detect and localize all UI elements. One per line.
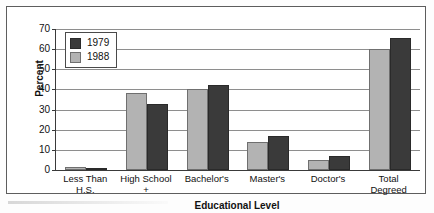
y-axis-tick xyxy=(52,89,56,90)
legend-item-1979: 1979 xyxy=(70,36,109,50)
y-axis-tick-label: 30 xyxy=(39,105,50,115)
y-axis-tick xyxy=(52,69,56,70)
legend-label: 1979 xyxy=(87,38,109,48)
y-axis-tick-label: 0 xyxy=(44,165,50,175)
bar-group xyxy=(177,85,238,170)
x-axis-category-label: Doctor's xyxy=(298,173,359,184)
y-axis-tick-label: 70 xyxy=(39,24,50,34)
x-axis-category-label: Total Degreed xyxy=(358,173,419,195)
x-axis-category-label: High School + xyxy=(116,173,177,195)
x-axis-category-label: Master's xyxy=(237,173,298,184)
y-axis-tick-label: 20 xyxy=(39,125,50,135)
scan-artifact xyxy=(8,201,168,204)
gridline xyxy=(56,29,420,30)
bar-1979-1 xyxy=(86,168,107,170)
bar-1979-4 xyxy=(268,136,289,170)
y-axis-tick xyxy=(52,150,56,151)
bar-group xyxy=(56,167,117,170)
bar-group xyxy=(117,93,178,170)
bar-1979-5 xyxy=(329,156,350,170)
y-axis-tick xyxy=(52,29,56,30)
bar-1988-5 xyxy=(308,160,329,170)
y-axis-tick xyxy=(52,110,56,111)
bar-1988-6 xyxy=(369,49,390,170)
y-axis-tick xyxy=(52,49,56,50)
y-axis-tick xyxy=(52,170,56,171)
figure-page: Percent 010203040506070 Educational Leve… xyxy=(0,0,434,213)
y-axis-tick xyxy=(52,130,56,131)
legend-label: 1988 xyxy=(87,52,109,62)
bar-1979-2 xyxy=(147,104,168,170)
chart-frame: Percent 010203040506070 Educational Leve… xyxy=(6,6,426,194)
y-axis-tick-label: 10 xyxy=(39,145,50,155)
bar-1988-2 xyxy=(126,93,147,170)
x-axis-category-label: Less Than H.S. xyxy=(55,173,116,195)
legend-swatch-1979 xyxy=(70,38,81,49)
bar-1988-1 xyxy=(65,167,86,170)
bar-1988-3 xyxy=(187,89,208,170)
bar-group xyxy=(238,136,299,170)
legend-swatch-1988 xyxy=(70,52,81,63)
bar-group xyxy=(299,156,360,170)
x-axis-category-label: Bachelor's xyxy=(176,173,237,184)
bar-group xyxy=(359,38,420,170)
legend-item-1988: 1988 xyxy=(70,50,109,64)
bar-1979-3 xyxy=(208,85,229,170)
chart-legend: 19791988 xyxy=(65,32,117,68)
y-axis-tick-label: 40 xyxy=(39,84,50,94)
bar-1988-4 xyxy=(247,142,268,170)
y-axis-tick-label: 60 xyxy=(39,44,50,54)
bar-1979-6 xyxy=(390,38,411,170)
y-axis-tick-label: 50 xyxy=(39,64,50,74)
